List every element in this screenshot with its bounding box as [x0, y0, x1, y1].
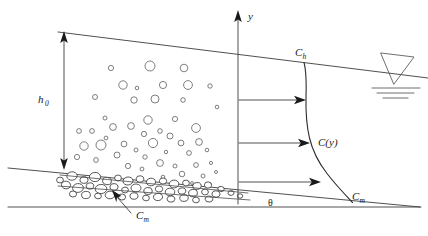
suspended-particle [196, 139, 203, 146]
bedload-particle [204, 182, 212, 189]
suspended-particle [191, 182, 194, 185]
bedload-particle [94, 193, 102, 199]
suspended-particle [144, 116, 152, 124]
suspended-particle [134, 148, 138, 152]
suspended-particle [108, 65, 113, 70]
suspended-particle [151, 95, 159, 103]
suspended-particle-field [74, 61, 218, 185]
suspended-particle [178, 140, 184, 146]
surface-concentration-subscript: h [303, 52, 307, 61]
suspended-particle [172, 116, 177, 121]
figure-container: y h 0 C h C(y) C m C m θ [0, 0, 428, 236]
suspended-particle [187, 151, 192, 156]
suspended-particle [125, 163, 130, 168]
suspended-particle [145, 61, 155, 71]
bedload-particle [130, 192, 139, 200]
suspended-particle [140, 167, 144, 171]
flux-arrow-group [239, 96, 321, 186]
bedload-particle [182, 180, 189, 186]
suspended-particle [173, 164, 177, 168]
bedload-particle [155, 185, 163, 192]
suspended-particle [93, 95, 98, 100]
suspended-particle [131, 97, 137, 103]
suspended-particle [179, 171, 185, 177]
flow-depth-label: h 0 [38, 93, 49, 108]
suspended-particle [208, 84, 212, 88]
y-axis-label: y [247, 10, 253, 22]
suspended-particle [205, 148, 209, 152]
suspended-particle [194, 163, 199, 168]
suspended-particle [96, 140, 106, 150]
suspended-particle [192, 124, 201, 133]
bedload-particle [131, 184, 141, 192]
surface-concentration-label: C h [295, 46, 307, 61]
suspended-particle [90, 129, 95, 134]
bedload-particle [89, 172, 101, 182]
suspended-particle [215, 171, 218, 174]
suspended-particle [184, 81, 193, 90]
bedload-particle [167, 195, 175, 202]
free-surface-symbol [372, 53, 420, 98]
free-surface-triangle-icon [381, 53, 414, 84]
bedload-particle [136, 175, 144, 182]
bedload-particle [143, 187, 152, 195]
suspended-particle [201, 174, 205, 178]
bed-concentration-label: C m [136, 209, 150, 224]
suspended-particle [94, 158, 99, 163]
bedload-particle [142, 195, 149, 201]
bedload-particle [81, 191, 90, 199]
flow-depth-subscript: 0 [45, 99, 49, 108]
concentration-profile-diagram: y h 0 C h C(y) C m C m θ [0, 0, 428, 236]
bed-concentration-subscript: m [144, 215, 150, 224]
profile-label: C(y) [318, 136, 338, 149]
suspended-particle [215, 105, 219, 109]
bedload-particle [121, 187, 128, 193]
suspended-particle [181, 98, 186, 103]
suspended-particle [103, 116, 107, 120]
suspended-particle [119, 81, 127, 89]
suspended-particle [143, 155, 147, 159]
suspended-particle [135, 86, 139, 90]
suspended-particle [141, 131, 146, 136]
suspended-particle [121, 141, 127, 147]
bedload-particle [146, 178, 156, 187]
suspended-particle [167, 133, 173, 139]
max-concentration-subscript: m [360, 196, 366, 205]
bedload-particle [153, 193, 163, 201]
max-concentration-label: C m [352, 190, 366, 205]
water-surface-line [58, 32, 428, 78]
slope-angle-label: θ [268, 197, 273, 208]
bedload-particle [178, 187, 186, 194]
suspended-particle [148, 138, 157, 147]
bedload-particle [69, 191, 77, 197]
suspended-particle [159, 81, 166, 88]
bedload-particle [192, 197, 199, 203]
suspended-particle [80, 142, 88, 150]
suspended-particle [180, 64, 188, 72]
bedload-particle [159, 177, 167, 184]
flow-depth-symbol: h [38, 93, 44, 105]
bedload-particle [169, 180, 179, 188]
bedload-particle [57, 177, 64, 183]
suspended-particle [157, 160, 164, 167]
suspended-particle [74, 154, 79, 159]
suspended-particle [114, 152, 120, 158]
suspended-particle [164, 150, 167, 153]
concentration-profile-curve [304, 63, 353, 203]
suspended-particle [104, 136, 108, 140]
suspended-particle [110, 124, 117, 131]
bedload-particle [165, 188, 175, 196]
suspended-particle [209, 161, 212, 164]
suspended-particle [158, 129, 163, 134]
suspended-particle [77, 129, 82, 134]
bedload-particle [202, 189, 209, 195]
suspended-particle [128, 123, 135, 130]
